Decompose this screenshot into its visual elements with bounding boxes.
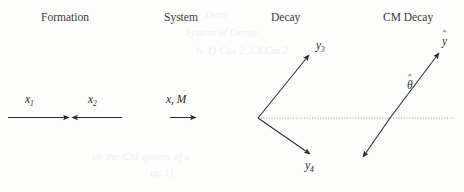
decay-product-y3-arrow [258, 55, 309, 118]
heading-system: System [164, 11, 198, 23]
label-y3-subscript: 3 [321, 45, 325, 54]
heading-cm-decay: CM Decay [383, 11, 433, 23]
label-x1: x1 [25, 93, 34, 108]
decay-product-y4-arrow [258, 118, 310, 154]
label-y4-subscript: 4 [310, 165, 314, 174]
label-y4: y4 [305, 159, 314, 174]
label-x2-subscript: 2 [93, 99, 97, 108]
label-x2: x2 [88, 93, 97, 108]
diagram-vector-artwork [0, 0, 464, 192]
label-theta-hat-accent: ˆ [408, 74, 412, 85]
label-y-hat: ˆy [442, 35, 447, 47]
label-x-m: x, M [166, 93, 186, 105]
cm-decay-diagram [363, 53, 439, 157]
heading-decay: Decay [271, 11, 300, 23]
decay-diagram [258, 55, 455, 154]
heading-formation: Formation [41, 11, 89, 23]
cm-decay-recoil-arrow [363, 118, 390, 157]
label-x1-subscript: 1 [30, 99, 34, 108]
label-theta-hat: ˆθ [407, 79, 413, 91]
cm-decay-product-yhat-arrow [390, 53, 439, 118]
label-y3: y3 [316, 39, 325, 54]
kinematics-figure: Dece System of Decay b. 1) Cas 2:2.3 Cm … [0, 0, 464, 192]
label-y-hat-accent: ˆ [443, 30, 447, 41]
